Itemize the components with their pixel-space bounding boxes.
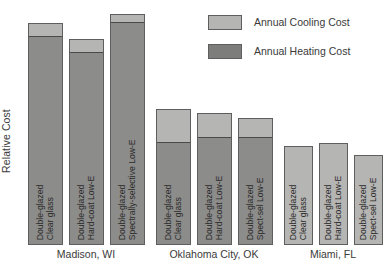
bar: Double-glazedClear glass — [156, 109, 191, 245]
bar-segment-heating — [70, 52, 103, 244]
legend-label-heating: Annual Heating Cost — [254, 45, 350, 57]
group-label: Miami, FL — [253, 248, 387, 260]
legend-swatch-heating-icon — [208, 44, 242, 59]
bar-segment-heating — [198, 137, 231, 244]
bar-segment-heating — [239, 137, 272, 244]
bar-segment-cooling — [29, 24, 62, 36]
bar: Double-glazedHard-coat Low-E — [197, 113, 232, 245]
chart-legend: Annual Cooling Cost Annual Heating Cost — [208, 14, 350, 72]
bar: Double-glazedSpectrally-selective Low-E — [110, 14, 145, 245]
bar-segment-cooling — [198, 114, 231, 137]
bar-segment-cooling — [355, 156, 382, 245]
legend-item-heating: Annual Heating Cost — [208, 43, 350, 59]
bar-segment-cooling — [70, 40, 103, 52]
legend-label-cooling: Annual Cooling Cost — [254, 16, 350, 28]
bar: Double-glazedHard-coat Low-E — [319, 143, 348, 245]
legend-item-cooling: Annual Cooling Cost — [208, 14, 350, 30]
bar-segment-cooling — [285, 147, 312, 245]
bar-segment-heating — [29, 36, 62, 244]
bar-segment-heating — [157, 142, 190, 244]
legend-swatch-cooling-icon — [208, 15, 242, 30]
bar-segment-heating — [111, 22, 144, 244]
bar-segment-cooling — [320, 144, 347, 245]
bar-segment-cooling — [157, 110, 190, 142]
bar: Double-glazedHard-coat Low-E — [69, 39, 104, 245]
bar-segment-cooling — [111, 15, 144, 22]
chart-container: Relative Cost Double-glazedClear glassDo… — [0, 0, 387, 276]
bar: Double-glazedClear glass — [284, 146, 313, 245]
bar-segment-cooling — [239, 119, 272, 137]
bar: Double-glazedSpect-sel Low-E — [354, 155, 383, 245]
bar: Double-glazedSpect-sel Low-E — [238, 118, 273, 245]
bar: Double-glazedClear glass — [28, 23, 63, 245]
